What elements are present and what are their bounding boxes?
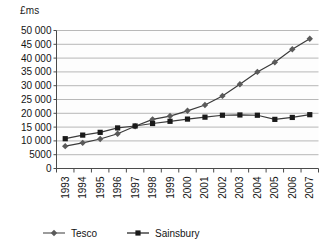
line-chart: £ms 0500010 00015 00020 00025 00030 0003…: [0, 0, 330, 250]
x-tick-label: 2001: [199, 176, 210, 199]
x-tick-label: 2007: [304, 176, 315, 199]
y-tick-label: 15 000: [21, 122, 52, 133]
data-point-sainsbury: [202, 115, 207, 120]
data-point-sainsbury: [237, 112, 242, 117]
x-tick-label: 2000: [182, 176, 193, 199]
y-tick-label: 20 000: [21, 108, 52, 119]
y-tick-label: 45 000: [21, 39, 52, 50]
y-tick-label: 35 000: [21, 66, 52, 77]
data-point-sainsbury: [167, 119, 172, 124]
legend-marker: [135, 230, 140, 235]
data-point-sainsbury: [63, 136, 68, 141]
data-point-sainsbury: [115, 125, 120, 130]
plot-area-wrapper: 0500010 00015 00020 00025 00030 00035 00…: [0, 0, 330, 250]
x-tick-label: 1994: [77, 176, 88, 199]
data-point-sainsbury: [133, 123, 138, 128]
legend-marker: [51, 230, 57, 236]
x-tick-label: 1993: [60, 176, 71, 199]
x-tick-label: 1997: [130, 176, 141, 199]
x-tick-label: 2005: [269, 176, 280, 199]
data-point-sainsbury: [80, 133, 85, 138]
data-point-sainsbury: [220, 113, 225, 118]
y-tick-label: 30 000: [21, 80, 52, 91]
y-tick-label: 10 000: [21, 135, 52, 146]
y-tick-label: 25 000: [21, 94, 52, 105]
x-tick-label: 1998: [147, 176, 158, 199]
y-tick-label: 5000: [29, 149, 52, 160]
data-point-sainsbury: [185, 116, 190, 121]
legend-label: Sainsbury: [155, 228, 199, 239]
x-tick-label: 1999: [165, 176, 176, 199]
x-tick-label: 2002: [217, 176, 228, 199]
x-tick-label: 2004: [252, 176, 263, 199]
legend-item-tesco[interactable]: Tesco: [43, 228, 98, 239]
legend-label: Tesco: [71, 228, 98, 239]
y-tick-label: 40 000: [21, 53, 52, 64]
x-tick-label: 2006: [287, 176, 298, 199]
data-point-sainsbury: [290, 115, 295, 120]
data-point-sainsbury: [98, 130, 103, 135]
x-tick-label: 1995: [95, 176, 106, 199]
x-tick-label: 1996: [112, 176, 123, 199]
data-point-sainsbury: [307, 112, 312, 117]
data-point-sainsbury: [272, 117, 277, 122]
chart-canvas: 0500010 00015 00020 00025 00030 00035 00…: [0, 0, 330, 250]
x-tick-label: 2003: [234, 176, 245, 199]
y-tick-label: 0: [46, 163, 52, 174]
legend-item-sainsbury[interactable]: Sainsbury: [127, 228, 199, 239]
data-point-sainsbury: [255, 113, 260, 118]
data-point-sainsbury: [150, 121, 155, 126]
y-tick-label: 50 000: [21, 25, 52, 36]
